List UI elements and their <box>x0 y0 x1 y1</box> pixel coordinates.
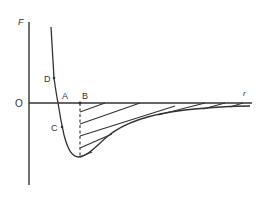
point-d-label: D <box>44 74 51 84</box>
point-d-marker <box>53 77 56 80</box>
r-axis-label: r <box>243 89 246 98</box>
point-a-label: A <box>62 91 68 101</box>
point-b-marker <box>79 102 82 105</box>
point-c-label: C <box>51 123 58 133</box>
point-c-marker <box>61 126 64 129</box>
force-distance-diagram: F O r D A B C <box>0 0 270 201</box>
point-b-label: B <box>82 91 88 101</box>
force-curve <box>51 27 250 157</box>
hatching <box>80 103 243 157</box>
origin-label: O <box>15 98 23 109</box>
f-axis-label: F <box>18 17 24 27</box>
